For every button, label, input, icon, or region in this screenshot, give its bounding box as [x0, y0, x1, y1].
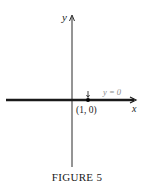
point-label: (1, 0)	[76, 105, 97, 116]
point-1-0	[86, 98, 90, 102]
line-label: y = 0	[102, 87, 122, 97]
y-axis-label: y	[61, 11, 67, 23]
diagram-canvas: y x y = 0 (1, 0)	[0, 0, 154, 193]
x-axis-label: x	[131, 103, 137, 114]
figure-caption: FIGURE 5	[0, 171, 154, 183]
